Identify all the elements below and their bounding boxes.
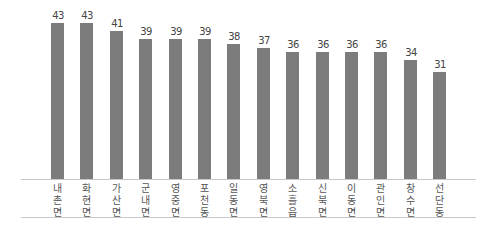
- category-label: 내촌면: [51, 183, 65, 219]
- data-label: 36: [308, 39, 338, 50]
- bar: [110, 31, 123, 179]
- bar-chart: 43내촌면43화현면41가산면39군내면39영중면39포천동38일동면37영북면…: [0, 0, 495, 232]
- bar: [169, 39, 182, 179]
- bar: [286, 52, 299, 179]
- category-label: 영중면: [169, 183, 183, 219]
- data-label: 36: [278, 39, 308, 50]
- bar: [227, 44, 240, 179]
- data-label: 31: [425, 59, 455, 70]
- bar: [404, 60, 417, 179]
- bar: [51, 23, 64, 179]
- data-label: 39: [131, 26, 161, 37]
- data-label: 41: [102, 18, 132, 29]
- bar: [257, 48, 270, 179]
- data-label: 38: [219, 31, 249, 42]
- bar: [316, 52, 329, 179]
- category-label: 가산면: [110, 183, 124, 219]
- bar: [433, 72, 446, 179]
- x-axis-line: [21, 179, 476, 180]
- category-label: 이동면: [345, 183, 359, 219]
- data-label: 43: [43, 10, 73, 21]
- category-label: 선단동: [433, 183, 447, 219]
- category-label: 소흘읍: [286, 183, 300, 219]
- data-label: 43: [72, 10, 102, 21]
- bar: [374, 52, 387, 179]
- category-label: 화현면: [80, 183, 94, 219]
- data-label: 39: [190, 26, 220, 37]
- data-label: 36: [337, 39, 367, 50]
- data-label: 36: [366, 39, 396, 50]
- category-label: 창수면: [404, 183, 418, 219]
- bar: [139, 39, 152, 179]
- category-label: 포천동: [198, 183, 212, 219]
- category-label: 군내면: [139, 183, 153, 219]
- category-label: 신북면: [316, 183, 330, 219]
- category-label: 일동면: [227, 183, 241, 219]
- bar: [345, 52, 358, 179]
- category-label: 관인면: [374, 183, 388, 219]
- category-label: 영북면: [257, 183, 271, 219]
- data-label: 39: [161, 26, 191, 37]
- bar: [80, 23, 93, 179]
- bar: [198, 39, 211, 179]
- data-label: 34: [396, 47, 426, 58]
- data-label: 37: [249, 35, 279, 46]
